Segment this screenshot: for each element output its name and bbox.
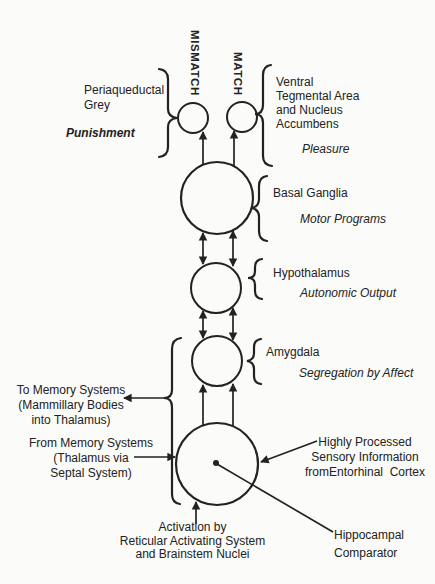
hypothalamus-brace [248, 259, 262, 299]
mismatch-output-label: MISMATCH [189, 30, 201, 110]
label-line: Hippocampal [334, 526, 404, 544]
punishment-caption: Punishment [66, 126, 135, 140]
label-line: fromEntorhinal Cortex [302, 465, 428, 480]
label-line: Highly Processed [302, 435, 428, 450]
label-line: Tegmental Area [276, 89, 359, 103]
from-memory-systems-label: From Memory Systems (Thalamus via Septal… [29, 436, 153, 481]
figure-canvas: MISMATCH MATCH Periaqueductal Grey Punis… [0, 0, 435, 584]
match-output-label: MATCH [232, 52, 244, 102]
periaqueductal-grey-label: Periaqueductal Grey [84, 83, 164, 113]
label-line: From Memory Systems [29, 436, 153, 451]
basal-ganglia-node-circle [181, 162, 253, 234]
activation-label: Activation by Reticular Activating Syste… [110, 521, 275, 562]
amygdala-label: Amygdala [266, 345, 319, 360]
label-line: (Thalamus via [29, 451, 153, 466]
label-line: and Brainstem Nuclei [110, 548, 275, 562]
label-line: Comparator [334, 544, 404, 562]
amygdala-node-circle [192, 336, 242, 386]
segregation-by-affect-caption: Segregation by Affect [299, 366, 413, 380]
pleasure-caption: Pleasure [302, 142, 349, 156]
hippocampal-comparator-label: Hippocampal Comparator [334, 526, 404, 562]
hypothalamus-node-circle [191, 263, 241, 313]
basal-ganglia-brace [251, 176, 267, 241]
label-line: Basal Ganglia [273, 186, 348, 201]
amygdala-brace [247, 339, 261, 384]
label-line: Hypothalamus [273, 266, 350, 281]
sensory-information-label: Highly Processed Sensory Information fro… [302, 435, 428, 480]
label-line: Periaqueductal [84, 83, 164, 98]
motor-programs-caption: Motor Programs [300, 212, 386, 226]
label-line: (Mammillary Bodies [9, 398, 133, 413]
label-line: Grey [84, 98, 164, 113]
label-line: Ventral [276, 75, 359, 89]
label-line: Sensory Information [302, 450, 428, 465]
autonomic-output-caption: Autonomic Output [300, 286, 396, 300]
label-line: Activation by [110, 521, 275, 535]
label-line: Amygdala [266, 345, 319, 360]
label-line: Reticular Activating System [110, 535, 275, 549]
hypothalamus-label: Hypothalamus [273, 266, 350, 281]
match-node-circle [227, 102, 257, 132]
label-line: into Thalamus) [9, 413, 133, 428]
label-line: Septal System) [29, 466, 153, 481]
to-memory-systems-label: To Memory Systems (Mammillary Bodies int… [9, 383, 133, 428]
label-line: Accumbens [276, 117, 359, 131]
label-line: To Memory Systems [9, 383, 133, 398]
basal-ganglia-label: Basal Ganglia [273, 186, 348, 201]
label-line: and Nucleus [276, 103, 359, 117]
vta-accumbens-label: Ventral Tegmental Area and Nucleus Accum… [276, 75, 359, 131]
